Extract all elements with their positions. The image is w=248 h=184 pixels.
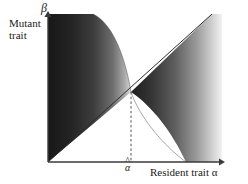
x-axis-label: Resident trait α (150, 167, 217, 179)
y-axis-label-line2: trait (9, 29, 27, 41)
x-axis-tick-label-alpha-hat: α (125, 163, 130, 174)
y-axis-symbol: β (41, 2, 47, 15)
y-axis-label: Mutanttrait (9, 18, 41, 42)
alpha-hat-glyph: α (125, 163, 130, 174)
y-axis-label-line1: Mutant (9, 17, 41, 29)
